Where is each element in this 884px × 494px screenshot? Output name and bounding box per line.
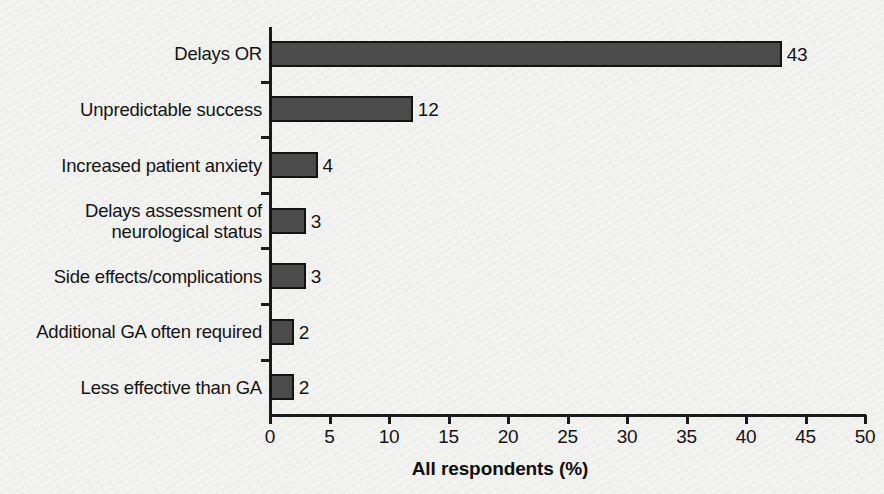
bar-value-label: 43 [787, 44, 808, 66]
bar [270, 152, 318, 178]
y-tick-3 [261, 192, 270, 195]
y-tick-1 [261, 81, 270, 84]
category-label: Unpredictable success [80, 99, 262, 120]
x-tick-10 [388, 415, 391, 424]
x-tick-35 [686, 415, 689, 424]
category-label: Increased patient anxiety [61, 155, 262, 176]
category-label: Delays OR [174, 43, 262, 64]
x-tick-label-5: 5 [310, 426, 350, 448]
x-tick-label-25: 25 [548, 426, 588, 448]
x-tick-25 [567, 415, 570, 424]
category-label: Less effective than GA [81, 377, 262, 398]
x-tick-label-40: 40 [726, 426, 766, 448]
bar-value-label: 12 [418, 99, 439, 121]
x-tick-label-30: 30 [607, 426, 647, 448]
x-tick-label-45: 45 [786, 426, 826, 448]
y-tick-2 [261, 136, 270, 139]
y-tick-4 [261, 247, 270, 250]
x-tick-50 [864, 415, 867, 424]
category-label: Delays assessment of neurological status [85, 200, 262, 242]
bar [270, 96, 413, 122]
x-tick-15 [448, 415, 451, 424]
x-tick-5 [329, 415, 332, 424]
category-label: Additional GA often required [36, 321, 262, 342]
bar-value-label: 4 [323, 155, 333, 177]
x-tick-40 [745, 415, 748, 424]
bar-value-label: 3 [311, 211, 321, 233]
x-tick-0 [269, 415, 272, 424]
x-tick-20 [507, 415, 510, 424]
bar [270, 319, 294, 345]
y-tick-6 [261, 359, 270, 362]
x-tick-30 [626, 415, 629, 424]
chart-page: 05101520253035404550 Delays ORUnpredicta… [0, 0, 884, 494]
bar-value-label: 2 [299, 322, 309, 344]
x-axis-title: All respondents (%) [0, 458, 884, 480]
bar-chart-plot-area: 05101520253035404550 Delays ORUnpredicta… [0, 0, 884, 494]
x-tick-label-35: 35 [667, 426, 707, 448]
x-tick-label-0: 0 [250, 426, 290, 448]
bar [270, 208, 306, 234]
x-tick-label-15: 15 [429, 426, 469, 448]
y-tick-5 [261, 303, 270, 306]
bar [270, 41, 782, 67]
x-tick-label-50: 50 [845, 426, 884, 448]
x-tick-label-20: 20 [488, 426, 528, 448]
x-tick-label-10: 10 [369, 426, 409, 448]
x-tick-45 [805, 415, 808, 424]
bar [270, 374, 294, 400]
bar [270, 263, 306, 289]
category-label: Side effects/complications [54, 266, 262, 287]
bar-value-label: 2 [299, 377, 309, 399]
bar-value-label: 3 [311, 266, 321, 288]
